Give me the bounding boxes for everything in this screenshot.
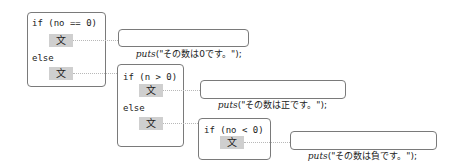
puts-box-positive: puts("その数は正です。");	[200, 80, 346, 99]
puts-arg: ("その数は0です。");	[156, 49, 242, 59]
else-label-1: else	[32, 53, 54, 63]
puts-arg: ("その数は負です。");	[328, 151, 417, 161]
statement-else-2: 文	[139, 117, 163, 130]
if-condition-3: if (no < 0)	[204, 125, 264, 135]
connector-then-3	[244, 142, 290, 143]
puts-fn: puts	[136, 49, 156, 59]
statement-else-1: 文	[49, 67, 73, 80]
puts-arg: ("その数は正です。");	[238, 100, 327, 110]
connector-else-1	[73, 73, 117, 74]
statement-then-1: 文	[49, 34, 73, 47]
if-condition-1: if (no == 0)	[32, 18, 97, 28]
statement-then-2: 文	[139, 84, 163, 97]
puts-fn: puts	[218, 100, 238, 110]
puts-box-zero: puts("その数は0です。");	[118, 29, 249, 47]
else-label-2: else	[123, 103, 145, 113]
puts-fn: puts	[308, 151, 328, 161]
statement-then-3: 文	[220, 136, 244, 149]
connector-else-2	[163, 123, 198, 124]
connector-then-2	[163, 90, 200, 91]
if-condition-2: if (n > 0)	[123, 72, 177, 82]
connector-then-1	[73, 40, 118, 41]
puts-box-negative: puts("その数は負です。");	[290, 131, 437, 150]
